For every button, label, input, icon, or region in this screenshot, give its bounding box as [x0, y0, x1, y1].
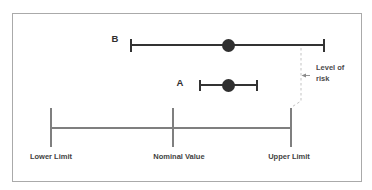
upper-limit-tick: [290, 108, 292, 147]
measurement-a-label: A: [172, 78, 188, 88]
measurement-a-value-dot: [222, 79, 235, 92]
measurement-a-left-cap: [199, 80, 201, 92]
nominal-value-tick: [172, 108, 174, 147]
lower-limit-tick: [50, 108, 52, 147]
risk-arrow-icon: [302, 74, 311, 78]
nominal-value-label: Nominal Value: [134, 152, 224, 161]
measurement-b-label: B: [107, 34, 123, 44]
diagram-panel: B A Level of risk Lower Limit No: [12, 13, 362, 182]
figure: B A Level of risk Lower Limit No: [0, 0, 372, 190]
measurement-b-right-cap: [323, 39, 325, 52]
measurement-b-value-dot: [222, 39, 235, 52]
risk-annotation-line2: risk: [316, 73, 344, 84]
risk-annotation-line1: Level of: [316, 62, 344, 73]
risk-annotation: Level of risk: [316, 62, 344, 84]
upper-limit-label: Upper Limit: [244, 152, 334, 161]
measurement-b-left-cap: [130, 39, 132, 52]
lower-limit-label: Lower Limit: [6, 152, 96, 161]
measurement-a-right-cap: [256, 80, 258, 92]
risk-dashed-line: [291, 48, 301, 108]
tolerance-scale-line: [51, 127, 291, 129]
